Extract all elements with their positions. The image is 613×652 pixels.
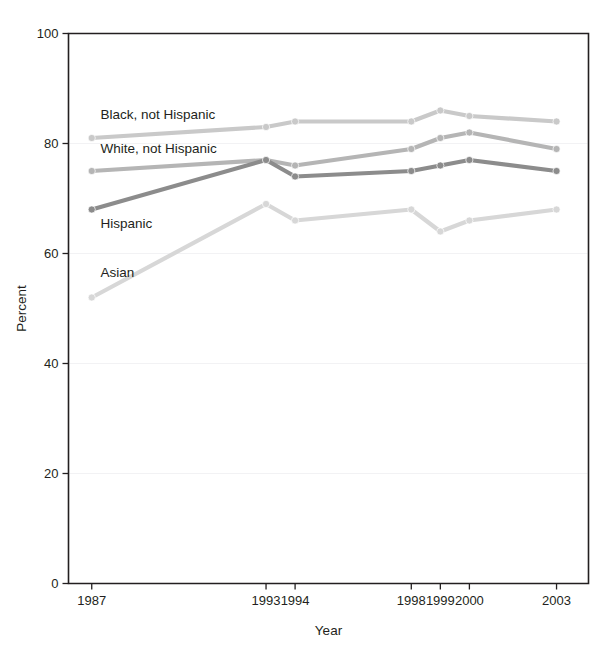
data-point-hispanic-1998: [408, 167, 415, 174]
x-tick-label-1998: 1998: [397, 593, 426, 608]
series-label-asian: Asian: [100, 265, 134, 280]
series-label-white-not-hispanic: White, not Hispanic: [100, 141, 217, 156]
data-point-hispanic-2000: [466, 156, 473, 163]
y-axis-title: Percent: [14, 285, 29, 332]
series-label-black-not-hispanic: Black, not Hispanic: [100, 107, 215, 122]
data-point-white-not-hispanic-1987: [88, 167, 95, 174]
data-point-asian-1998: [408, 206, 415, 213]
chart-figure: 0204060801001987199319941998199920002003…: [0, 0, 613, 652]
data-point-hispanic-1993: [262, 156, 269, 163]
line-chart-svg: 0204060801001987199319941998199920002003…: [0, 0, 613, 652]
data-point-asian-2003: [553, 206, 560, 213]
data-point-asian-1999: [437, 228, 444, 235]
series-line-asian: [92, 204, 557, 298]
y-tick-label-80: 80: [44, 136, 58, 151]
data-point-asian-1987: [88, 294, 95, 301]
data-point-black-not-hispanic-1993: [262, 123, 269, 130]
y-tick-label-0: 0: [51, 576, 58, 591]
data-point-asian-1994: [291, 217, 298, 224]
data-point-hispanic-1987: [88, 206, 95, 213]
data-point-asian-2000: [466, 217, 473, 224]
x-tick-label-2000: 2000: [455, 593, 484, 608]
x-tick-label-2003: 2003: [542, 593, 571, 608]
x-tick-label-1987: 1987: [77, 593, 106, 608]
data-point-black-not-hispanic-2003: [553, 118, 560, 125]
x-tick-label-1999: 1999: [426, 593, 455, 608]
data-point-white-not-hispanic-1999: [437, 134, 444, 141]
data-point-hispanic-2003: [553, 167, 560, 174]
data-point-black-not-hispanic-1987: [88, 134, 95, 141]
data-point-white-not-hispanic-2000: [466, 129, 473, 136]
x-tick-label-1993: 1993: [252, 593, 281, 608]
data-point-black-not-hispanic-1998: [408, 118, 415, 125]
data-point-white-not-hispanic-1998: [408, 145, 415, 152]
data-point-white-not-hispanic-1994: [291, 162, 298, 169]
y-tick-label-40: 40: [44, 356, 58, 371]
data-point-black-not-hispanic-1994: [291, 118, 298, 125]
data-point-black-not-hispanic-2000: [466, 112, 473, 119]
series-label-hispanic: Hispanic: [100, 216, 152, 231]
x-axis-title: Year: [315, 623, 343, 638]
data-point-hispanic-1999: [437, 162, 444, 169]
y-tick-label-100: 100: [37, 26, 59, 41]
data-point-hispanic-1994: [291, 173, 298, 180]
data-point-asian-1993: [262, 200, 269, 207]
x-tick-label-1994: 1994: [281, 593, 310, 608]
y-tick-label-60: 60: [44, 246, 58, 261]
y-tick-label-20: 20: [44, 466, 58, 481]
data-point-black-not-hispanic-1999: [437, 107, 444, 114]
data-point-white-not-hispanic-2003: [553, 145, 560, 152]
